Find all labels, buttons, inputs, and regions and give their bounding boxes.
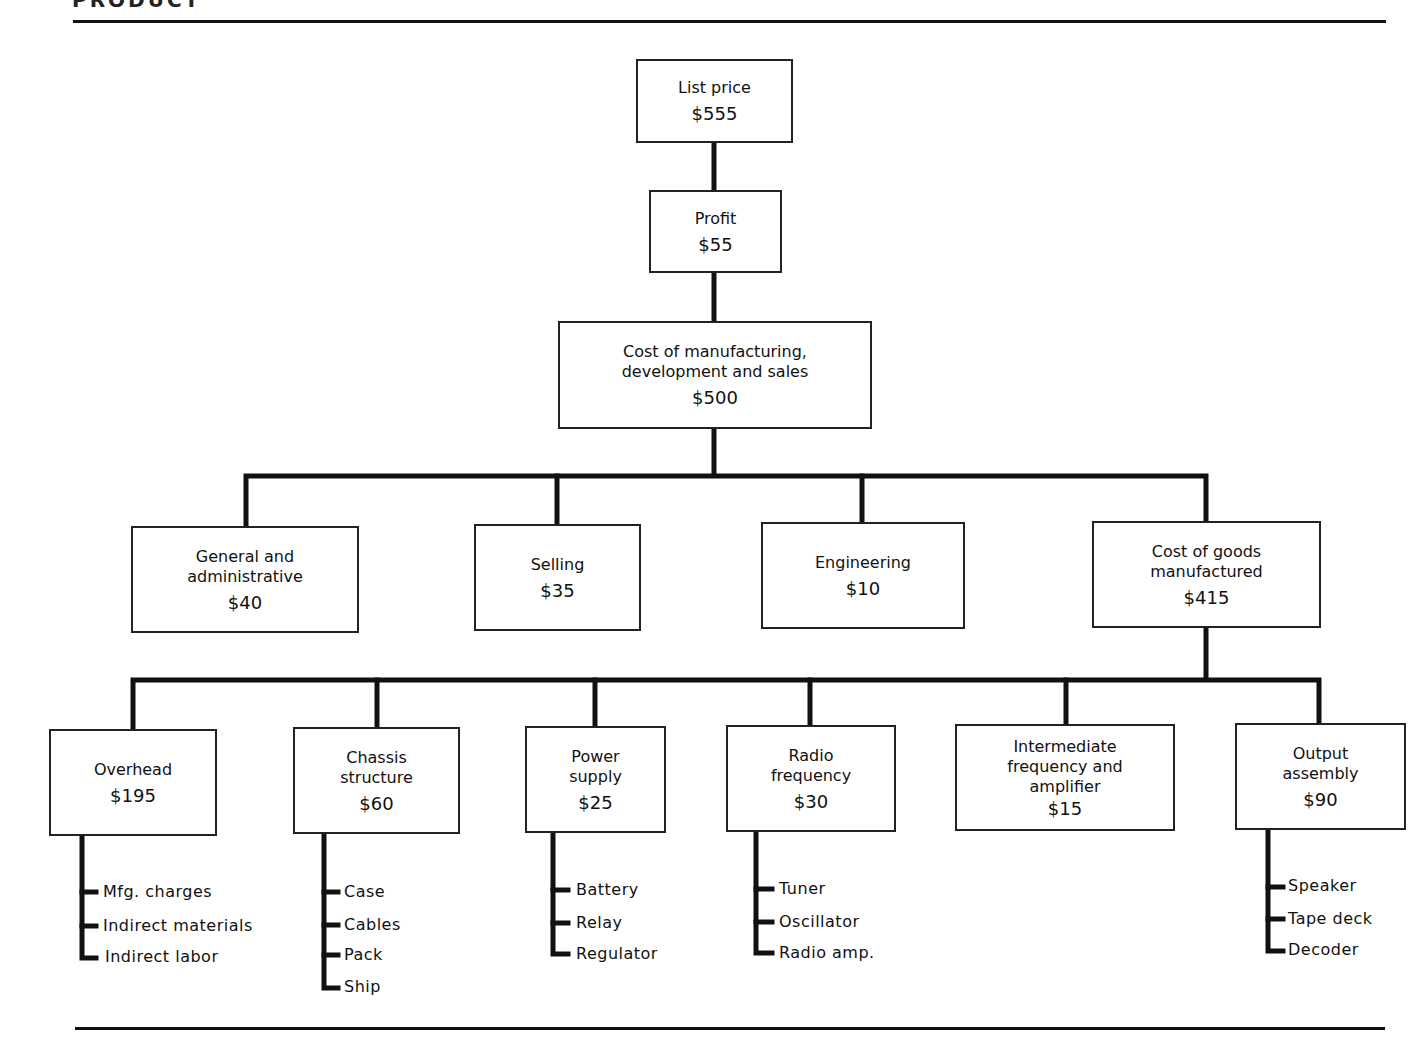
node-value: $15 <box>1048 799 1082 819</box>
node-value: $500 <box>692 388 738 408</box>
node-value: $35 <box>540 581 574 601</box>
subitem-speaker: Speaker <box>1288 876 1357 895</box>
subitem-ship: Ship <box>344 977 381 996</box>
node-value: $40 <box>228 593 262 613</box>
subitem-indirect-materials: Indirect materials <box>103 916 253 935</box>
subitem-battery: Battery <box>576 880 639 899</box>
node-label: Selling <box>531 555 585 575</box>
node-power-supply: Power supply $25 <box>525 726 666 833</box>
subitem-oscillator: Oscillator <box>779 912 860 931</box>
node-if-amplifier: Intermediate frequency and amplifier $15 <box>955 724 1175 831</box>
node-label: Radio frequency <box>771 746 851 786</box>
node-list-price: List price $555 <box>636 59 793 143</box>
node-cost-goods-manufactured: Cost of goods manufactured $415 <box>1092 521 1321 628</box>
node-value: $25 <box>578 793 612 813</box>
node-label: Engineering <box>815 553 911 573</box>
subitem-cables: Cables <box>344 915 401 934</box>
node-label: Profit <box>695 209 737 229</box>
subitem-pack: Pack <box>344 945 383 964</box>
node-label: Output assembly <box>1283 744 1359 784</box>
node-profit: Profit $55 <box>649 190 782 273</box>
subitem-decoder: Decoder <box>1288 940 1359 959</box>
subitem-case: Case <box>344 882 385 901</box>
node-value: $60 <box>359 794 393 814</box>
node-overhead: Overhead $195 <box>49 729 217 836</box>
node-value: $195 <box>110 786 156 806</box>
subitem-radio-amp: Radio amp. <box>779 943 875 962</box>
node-selling: Selling $35 <box>474 524 641 631</box>
subitem-regulator: Regulator <box>576 944 658 963</box>
node-engineering: Engineering $10 <box>761 522 965 629</box>
subitem-tape-deck: Tape deck <box>1288 909 1373 928</box>
node-value: $555 <box>692 104 738 124</box>
node-label: Overhead <box>94 760 172 780</box>
node-chassis-structure: Chassis structure $60 <box>293 727 460 834</box>
subitem-indirect-labor: Indirect labor <box>105 947 218 966</box>
node-label: Power supply <box>569 747 622 787</box>
node-radio-frequency: Radio frequency $30 <box>726 725 896 832</box>
subitem-relay: Relay <box>576 913 622 932</box>
node-general-admin: General and administrative $40 <box>131 526 359 633</box>
node-label: Intermediate frequency and amplifier <box>1007 737 1122 797</box>
node-label: Cost of manufacturing, development and s… <box>622 342 809 382</box>
node-value: $30 <box>794 792 828 812</box>
node-value: $10 <box>846 579 880 599</box>
node-label: General and administrative <box>187 547 303 587</box>
node-label: List price <box>678 78 751 98</box>
node-label: Chassis structure <box>340 748 413 788</box>
node-cost-mfg-dev-sales: Cost of manufacturing, development and s… <box>558 321 872 429</box>
node-value: $55 <box>698 235 732 255</box>
node-label: Cost of goods manufactured <box>1150 542 1263 582</box>
node-value: $415 <box>1184 588 1230 608</box>
subitem-mfg-charges: Mfg. charges <box>103 882 212 901</box>
subitem-tuner: Tuner <box>779 879 826 898</box>
node-output-assembly: Output assembly $90 <box>1235 723 1406 830</box>
node-value: $90 <box>1303 790 1337 810</box>
